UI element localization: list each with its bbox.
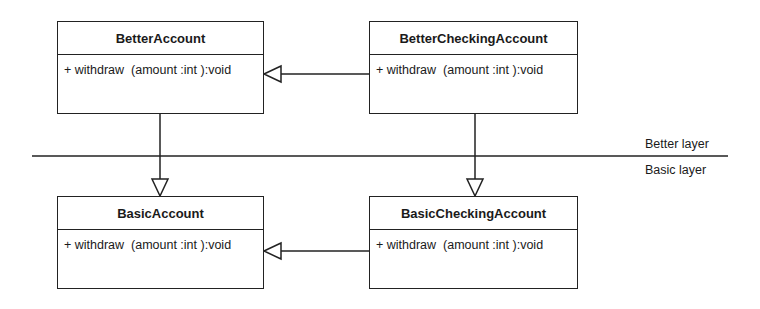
- generalization-arrowhead-icon: [264, 243, 281, 259]
- class-name: BetterCheckingAccount: [370, 22, 577, 55]
- class-operation: + withdraw (amount :int ):void: [58, 55, 263, 77]
- class-better-checking-account[interactable]: BetterCheckingAccount + withdraw (amount…: [369, 21, 578, 114]
- class-operation: + withdraw (amount :int ):void: [370, 230, 577, 252]
- class-better-account[interactable]: BetterAccount + withdraw (amount :int ):…: [57, 21, 264, 114]
- class-name: BasicAccount: [58, 197, 263, 230]
- class-basic-account[interactable]: BasicAccount + withdraw (amount :int ):v…: [57, 196, 264, 289]
- class-name: BetterAccount: [58, 22, 263, 55]
- generalization-arrowhead-icon: [264, 66, 281, 82]
- layer-label-better: Better layer: [645, 137, 709, 151]
- class-operation: + withdraw (amount :int ):void: [58, 230, 263, 252]
- generalization-arrowhead-icon: [467, 179, 483, 196]
- layer-label-basic: Basic layer: [645, 163, 706, 177]
- generalization-arrowhead-icon: [152, 179, 168, 196]
- class-basic-checking-account[interactable]: BasicCheckingAccount + withdraw (amount …: [369, 196, 578, 289]
- class-operation: + withdraw (amount :int ):void: [370, 55, 577, 77]
- class-name: BasicCheckingAccount: [370, 197, 577, 230]
